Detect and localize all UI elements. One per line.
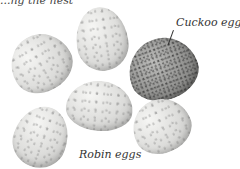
robin-egg-left-top bbox=[0, 22, 82, 103]
caption-fragment: ...ng the nest bbox=[0, 0, 73, 7]
cuckoo-egg-label: Cuckoo egg bbox=[176, 16, 240, 29]
robin-egg-center bbox=[64, 78, 135, 134]
robin-egg-top-center bbox=[72, 4, 132, 75]
robin-eggs-label: Robin eggs bbox=[79, 148, 141, 161]
